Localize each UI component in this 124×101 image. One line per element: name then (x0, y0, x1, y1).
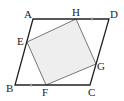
label-f: F (42, 86, 48, 98)
diagram-canvas: A H D E G B F C (0, 0, 124, 101)
label-d: D (110, 8, 118, 20)
label-c: C (88, 86, 95, 98)
label-h: H (72, 6, 80, 18)
label-b: B (6, 82, 13, 94)
label-e: E (17, 35, 24, 47)
label-a: A (24, 8, 32, 20)
quadrilateral-efgh (27, 19, 96, 85)
label-g: G (97, 60, 105, 72)
